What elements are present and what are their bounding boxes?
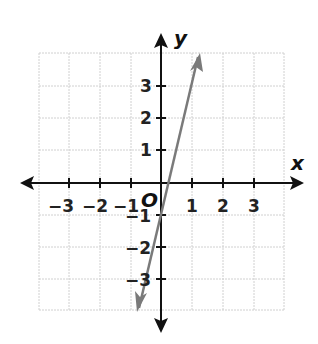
y-axis-label: y [174,26,188,50]
svg-text:3: 3 [140,76,152,96]
coordinate-plane: y x O −3 −2 −1 1 2 3 3 2 1 −1 −2 −3 [0,0,318,344]
svg-text:−3: −3 [125,270,151,290]
svg-text:−3: −3 [48,196,74,216]
svg-text:2: 2 [217,196,229,216]
svg-text:1: 1 [140,140,152,160]
svg-text:3: 3 [248,196,260,216]
svg-text:−2: −2 [82,196,108,216]
svg-text:1: 1 [186,196,198,216]
svg-text:−1: −1 [125,206,151,226]
svg-text:−2: −2 [125,238,151,258]
x-axis-label: x [290,151,305,175]
svg-text:2: 2 [140,108,152,128]
